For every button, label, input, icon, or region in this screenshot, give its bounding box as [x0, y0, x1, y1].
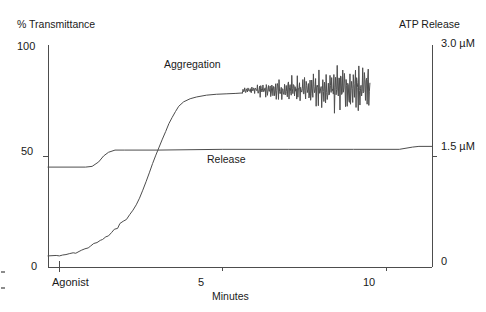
aggregometry-figure: % Transmittance 100 50 0 ATP Release 3.0…	[0, 0, 486, 312]
x-axis-tick-5: 5	[198, 277, 204, 288]
left-axis-tick-0: 0	[31, 261, 37, 272]
curve-aggregation-rise	[48, 93, 242, 256]
x-axis-title: Minutes	[212, 291, 249, 302]
right-axis-tick-1-5: 1.5 µM	[441, 141, 475, 152]
x-axis-tick-10: 10	[363, 277, 375, 288]
left-axis-tick-100: 100	[17, 41, 35, 52]
right-axis-tick-0: 0	[441, 256, 447, 267]
right-axis-tick-3: 3.0 µM	[441, 38, 475, 49]
scan-artifacts	[1, 271, 5, 289]
annotation-aggregation: Aggregation	[164, 59, 221, 70]
curve-aggregation-oscillating	[242, 65, 369, 113]
x-axis-event-label-agonist: Agonist	[52, 277, 89, 288]
annotation-release: Release	[207, 154, 246, 165]
right-axis-title: ATP Release	[399, 19, 460, 30]
left-axis-title: % Transmittance	[17, 19, 95, 30]
left-axis-tick-50: 50	[21, 146, 33, 157]
